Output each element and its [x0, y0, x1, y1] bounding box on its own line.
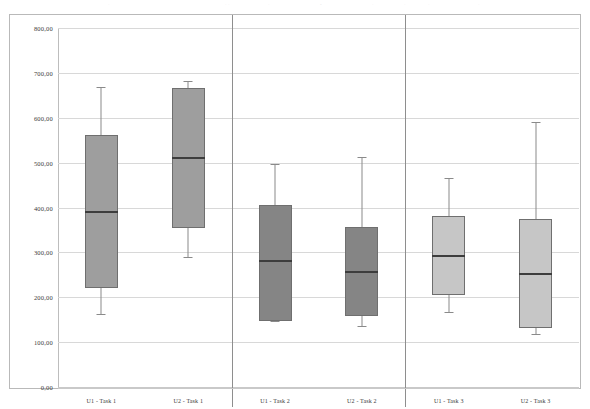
- y-tick-label: 800,00: [34, 25, 53, 32]
- x-tick-label: U1 - Task 1: [87, 398, 117, 404]
- group-separator: [232, 15, 233, 407]
- chart-frame: 800,00700,00600,00500,00400,00300,00200,…: [9, 14, 581, 389]
- scan-artifact: •: [320, 2, 322, 7]
- median-line: [432, 255, 465, 257]
- gridline: [58, 73, 579, 74]
- gridline: [58, 28, 579, 29]
- scan-artifact-row: ·· ··•····: [0, 0, 590, 12]
- gridline: [58, 118, 579, 119]
- upper-whisker-line: [535, 122, 536, 218]
- y-tick-label: 500,00: [34, 159, 53, 166]
- y-tick-label: 0,00: [41, 384, 53, 391]
- upper-whisker-cap: [271, 164, 280, 165]
- gridline: [58, 342, 579, 343]
- lower-whisker-line: [448, 295, 449, 312]
- boxplot[interactable]: U2 - Task 2: [345, 28, 378, 387]
- upper-whisker-line: [361, 157, 362, 227]
- scan-artifact: ·: [404, 2, 406, 7]
- median-line: [259, 260, 292, 262]
- upper-whisker-cap: [531, 122, 540, 123]
- lower-whisker-cap: [357, 326, 366, 327]
- x-tick-label: U1 - Task 3: [434, 398, 464, 404]
- lower-whisker-line: [101, 288, 102, 314]
- scan-artifact: ·: [108, 2, 110, 7]
- gridline: [58, 163, 579, 164]
- scan-artifact: ·: [268, 2, 270, 7]
- lower-whisker-line: [188, 228, 189, 257]
- y-tick-label: 700,00: [34, 69, 53, 76]
- x-axis-line: [58, 388, 579, 389]
- median-line: [345, 271, 378, 273]
- plot-area: 800,00700,00600,00500,00400,00300,00200,…: [58, 28, 579, 387]
- upper-whisker-line: [188, 81, 189, 88]
- box-iqr-rect[interactable]: [259, 205, 292, 321]
- lower-whisker-cap: [444, 312, 453, 313]
- upper-whisker-line: [101, 87, 102, 135]
- gridline: [58, 208, 579, 209]
- y-tick-label: 600,00: [34, 114, 53, 121]
- scan-artifact: ·: [478, 2, 480, 7]
- gridline: [58, 297, 579, 298]
- median-line: [85, 211, 118, 213]
- boxplot[interactable]: U1 - Task 2: [259, 28, 292, 387]
- y-tick-label: 100,00: [34, 339, 53, 346]
- boxplot[interactable]: U2 - Task 1: [172, 28, 205, 387]
- scan-artifact: ·: [372, 2, 374, 7]
- group-separator: [405, 15, 406, 407]
- upper-whisker-cap: [97, 87, 106, 88]
- scan-artifact: · ·: [225, 2, 230, 7]
- boxplot[interactable]: U1 - Task 1: [85, 28, 118, 387]
- scan-artifact: ·: [428, 2, 430, 7]
- x-tick-label: U2 - Task 3: [521, 398, 551, 404]
- median-line: [519, 273, 552, 275]
- lower-whisker-cap: [97, 314, 106, 315]
- boxplot[interactable]: U1 - Task 3: [432, 28, 465, 387]
- median-line: [172, 157, 205, 159]
- upper-whisker-cap: [444, 178, 453, 179]
- x-tick-label: U2 - Task 2: [347, 398, 377, 404]
- y-tick-label: 400,00: [34, 204, 53, 211]
- upper-whisker-cap: [184, 81, 193, 82]
- chart-root: ·· ··•···· 800,00700,00600,00500,00400,0…: [0, 0, 590, 409]
- y-tick-label: 200,00: [34, 294, 53, 301]
- lower-whisker-cap: [184, 257, 193, 258]
- lower-whisker-cap: [531, 334, 540, 335]
- boxplot[interactable]: U2 - Task 3: [519, 28, 552, 387]
- x-tick-label: U2 - Task 1: [173, 398, 203, 404]
- upper-whisker-line: [448, 178, 449, 217]
- lower-whisker-line: [361, 316, 362, 326]
- y-tick-label: 300,00: [34, 249, 53, 256]
- gridline: [58, 252, 579, 253]
- x-tick-label: U1 - Task 2: [260, 398, 290, 404]
- upper-whisker-line: [275, 164, 276, 206]
- upper-whisker-cap: [357, 157, 366, 158]
